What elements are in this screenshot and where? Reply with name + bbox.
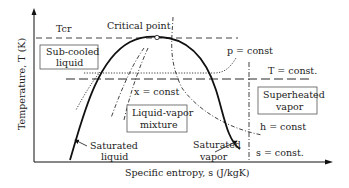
sat-liquid-label-line1: Saturated	[90, 140, 138, 151]
tcr-label: Tcr	[56, 23, 72, 34]
x-const-label: x = const	[134, 86, 179, 97]
subcooled-label-line1: Sub-cooled	[46, 46, 99, 57]
sat-liquid-arrow	[75, 140, 87, 146]
critical-point-marker	[155, 35, 159, 39]
mixture-label-line2: mixture	[140, 119, 178, 130]
sat-vapor-label-line2: vapor	[199, 151, 228, 162]
sat-liquid-label-line2: liquid	[101, 151, 128, 162]
sat-vapor-label-line1: Saturated	[193, 139, 241, 150]
superheated-label-line1: Superheated	[263, 89, 325, 100]
x-axis-label: Specific entropy, s (J/kgK)	[125, 167, 250, 178]
ts-diagram: Specific entropy, s (J/kgK) Temperature,…	[0, 0, 349, 188]
t-const-label: T = const.	[268, 65, 317, 76]
h-const-label: h = const	[260, 121, 306, 132]
mixture-label-line1: Liquid-vapor	[132, 107, 194, 118]
critical-point-label: Critical point	[107, 20, 171, 31]
p-const-label: p = const	[227, 45, 273, 56]
s-const-label: s = const.	[256, 147, 304, 158]
x-axis-arrow-icon	[325, 160, 333, 165]
y-axis-arrow-icon	[32, 8, 37, 15]
superheated-label-line2: vapor	[275, 101, 304, 112]
y-axis-label: Temperature, T (K)	[16, 38, 27, 130]
subcooled-label-line2: liquid	[56, 57, 83, 68]
